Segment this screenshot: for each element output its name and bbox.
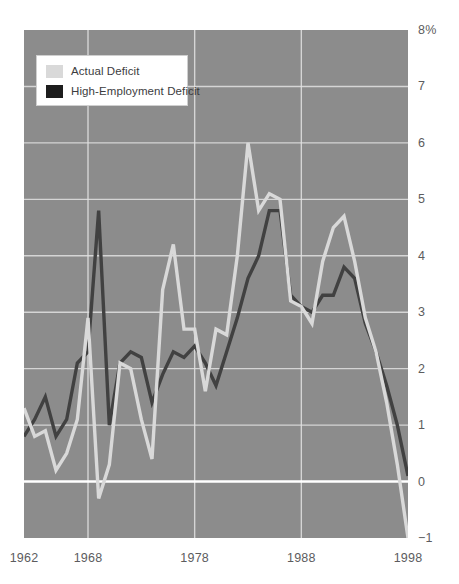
legend-label-actual-deficit: Actual Deficit xyxy=(71,65,140,77)
y-tick-label: 0 xyxy=(418,476,425,489)
y-tick-label: −1 xyxy=(418,532,433,545)
y-tick-label: 7 xyxy=(418,80,425,93)
x-tick-label: 1998 xyxy=(378,552,438,565)
legend-item-actual-deficit: Actual Deficit xyxy=(46,62,179,80)
y-tick-label: 5 xyxy=(418,193,425,206)
legend-swatch-actual-deficit xyxy=(46,65,63,78)
y-tick-label: 8% xyxy=(418,24,436,37)
x-tick-label: 1968 xyxy=(58,552,118,565)
x-tick-label: 1988 xyxy=(271,552,331,565)
y-tick-label: 4 xyxy=(418,250,425,263)
y-tick-label: 1 xyxy=(418,419,425,432)
y-tick-label: 3 xyxy=(418,306,425,319)
y-tick-label: 2 xyxy=(418,363,425,376)
x-tick-label: 1978 xyxy=(165,552,225,565)
deficit-line-chart: 8%76543210−1 19621968197819881998 Actual… xyxy=(0,0,459,584)
legend-swatch-high-employment-deficit xyxy=(46,85,63,98)
y-tick-label: 6 xyxy=(418,137,425,150)
chart-legend: Actual Deficit High-Employment Deficit xyxy=(36,55,188,106)
legend-item-high-employment-deficit: High-Employment Deficit xyxy=(46,82,179,100)
legend-label-high-employment-deficit: High-Employment Deficit xyxy=(71,85,200,97)
x-tick-label: 1962 xyxy=(0,552,54,565)
plot-background xyxy=(24,30,408,538)
